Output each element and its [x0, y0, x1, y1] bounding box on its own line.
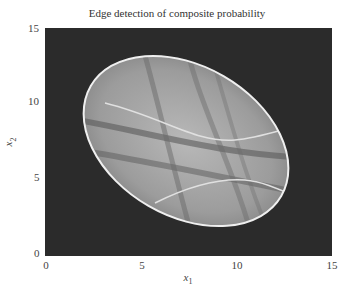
x-tick-10: 10: [232, 259, 243, 271]
x-tick-0: 0: [43, 259, 49, 271]
y-axis-label: x2: [2, 138, 17, 147]
x-axis-label: x1: [184, 271, 193, 286]
y-tick-15: 15: [28, 22, 39, 34]
plot-area: [45, 28, 332, 256]
y-tick-5: 5: [34, 171, 40, 183]
x-tick-15: 15: [327, 259, 338, 271]
x-tick-5: 5: [139, 259, 145, 271]
chart-title: Edge detection of composite probability: [0, 7, 354, 19]
y-tick-0: 0: [34, 247, 40, 259]
y-tick-10: 10: [28, 95, 39, 107]
heatmap-image: [45, 28, 332, 256]
